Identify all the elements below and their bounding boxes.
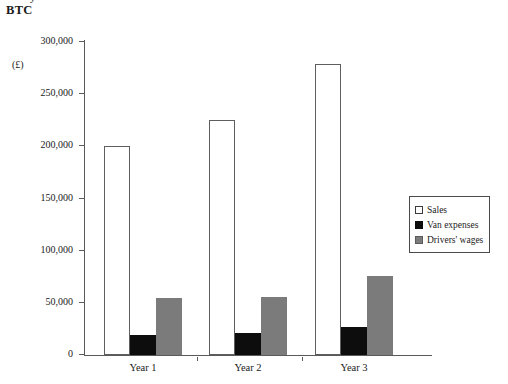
legend-item-sales[interactable]: Sales	[415, 202, 483, 217]
legend-item-label: Sales	[427, 205, 447, 215]
y-axis-tick-label: 250,000	[41, 86, 74, 99]
bar-van	[235, 333, 261, 355]
bar-group-year-3: Year 3	[315, 64, 393, 355]
legend-item-label: Van expenses	[427, 220, 478, 230]
x-axis-label: Year 3	[294, 362, 414, 373]
x-axis-tick	[197, 357, 198, 361]
bar-wages	[261, 297, 287, 355]
legend-swatch-icon	[415, 206, 423, 214]
y-axis-tick: 100,000	[79, 250, 84, 251]
x-axis-label: Year 1	[83, 362, 203, 373]
y-axis-tick: 50,000	[79, 302, 84, 303]
clipped-top-text-strip: y	[0, 0, 508, 3]
legend-item-van-expenses[interactable]: Van expenses	[415, 217, 483, 232]
y-axis-tick: 0	[79, 354, 84, 355]
x-axis-line	[84, 355, 432, 356]
page-title: BTC	[6, 3, 33, 18]
bar-sales	[315, 64, 341, 355]
y-axis-tick: 300,000	[79, 41, 84, 42]
y-axis-tick: 200,000	[79, 145, 84, 146]
y-axis-tick-label: 300,000	[41, 34, 74, 47]
y-axis-tick-label: 150,000	[41, 191, 74, 204]
legend-item-drivers-wages[interactable]: Drivers' wages	[415, 232, 483, 247]
y-axis-tick-label: 0	[68, 347, 73, 360]
y-axis-tick: 250,000	[79, 93, 84, 94]
y-axis-tick-label: 200,000	[41, 138, 74, 151]
bar-group-year-1: Year 1	[104, 146, 182, 355]
legend-swatch-icon	[415, 221, 423, 229]
y-axis-tick: 150,000	[79, 198, 84, 199]
x-axis-label: Year 2	[188, 362, 308, 373]
bar-group-year-2: Year 2	[209, 120, 287, 355]
y-axis-line	[84, 40, 85, 356]
bar-van	[341, 327, 367, 355]
x-axis-tick	[302, 357, 303, 361]
y-axis-tick-label: 50,000	[46, 295, 74, 308]
bar-wages	[156, 298, 182, 355]
y-axis-unit-label: (£)	[12, 59, 24, 70]
legend-item-label: Drivers' wages	[427, 235, 483, 245]
y-axis-tick-label: 100,000	[41, 243, 74, 256]
bar-sales	[104, 146, 130, 355]
bar-wages	[367, 276, 393, 355]
bar-sales	[209, 120, 235, 355]
legend-swatch-icon	[415, 236, 423, 244]
chart-legend: SalesVan expensesDrivers' wages	[409, 196, 490, 253]
chart-plot-area: 050,000100,000150,000200,000250,000300,0…	[84, 40, 432, 357]
bar-van	[130, 335, 156, 355]
